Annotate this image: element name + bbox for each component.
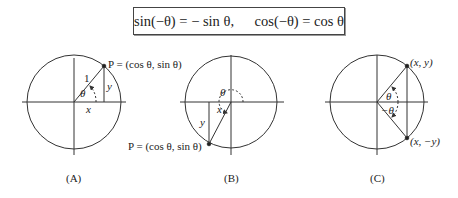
y-label: y xyxy=(199,116,205,128)
point-lower xyxy=(405,136,409,140)
diagram-a xyxy=(22,55,126,155)
point-p xyxy=(102,64,106,68)
x-label: x xyxy=(85,103,91,115)
diagram-b-labels: θ x y P = (cos θ, sin θ) (B) xyxy=(128,86,239,185)
radius-upper xyxy=(377,66,407,102)
caption-c: (C) xyxy=(370,172,385,185)
point-upper xyxy=(405,64,409,68)
diagram-a-labels: P = (cos θ, sin θ) 1 θ y x (A) xyxy=(66,58,182,185)
caption-a: (A) xyxy=(66,172,82,185)
point-p xyxy=(207,142,211,146)
angle-label: θ xyxy=(220,86,226,98)
angle-upper-label: θ xyxy=(386,90,392,102)
angle-arc xyxy=(90,86,96,102)
radius-label: 1 xyxy=(84,72,90,84)
point-p-label: P = (cos θ, sin θ) xyxy=(108,58,182,71)
diagram-c-labels: (x, y) (x, −y) θ −θ (C) xyxy=(370,56,440,185)
point-upper-label: (x, y) xyxy=(410,56,433,69)
point-lower-label: (x, −y) xyxy=(410,135,440,148)
angle-label: θ xyxy=(80,87,86,99)
angle-lower-label: −θ xyxy=(381,104,394,116)
angle-arc-upper xyxy=(392,87,398,102)
unit-circle-diagrams: P = (cos θ, sin θ) 1 θ y x (A) θ x y P =… xyxy=(0,0,458,198)
y-label: y xyxy=(106,80,112,92)
caption-b: (B) xyxy=(224,172,239,185)
point-p-label: P = (cos θ, sin θ) xyxy=(128,140,202,153)
x-label: x xyxy=(216,103,222,115)
